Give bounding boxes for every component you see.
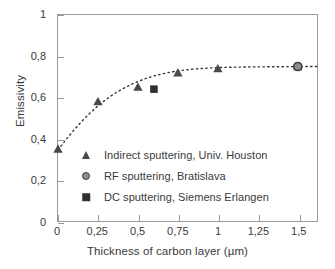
triangle-marker-icon <box>78 148 94 162</box>
legend-label: RF sputtering, Bratislava <box>104 170 226 182</box>
legend-item-indirect-sputtering: Indirect sputtering, Univ. Houston <box>78 146 308 164</box>
x-axis-tick-labels: 00,250,50,7511,251,5 <box>57 225 318 239</box>
circle-data-point <box>294 62 302 70</box>
y-tick-label: 0,8 <box>31 50 46 61</box>
plot-area: Indirect sputtering, Univ. Houston RF sp… <box>58 15 317 221</box>
square-marker-icon <box>78 190 94 204</box>
square-data-point <box>150 85 158 93</box>
y-tick-label: 0,6 <box>31 92 46 103</box>
legend-label: DC sputtering, Siemens Erlangen <box>104 191 269 203</box>
y-tick-label: 0,4 <box>31 133 46 144</box>
legend-label: Indirect sputtering, Univ. Houston <box>104 149 268 161</box>
x-axis-title: Thickness of carbon layer (µm) <box>0 245 335 257</box>
chart-legend: Indirect sputtering, Univ. Houston RF sp… <box>78 146 308 209</box>
trend-curve <box>58 67 317 150</box>
x-tick-label: 0,75 <box>167 225 188 237</box>
legend-item-rf-sputtering: RF sputtering, Bratislava <box>78 167 308 185</box>
plot-frame: Indirect sputtering, Univ. Houston RF sp… <box>57 14 318 222</box>
x-tick-label: 1,5 <box>291 225 306 237</box>
y-tick <box>58 223 64 224</box>
y-tick-label: 0,2 <box>31 175 46 186</box>
y-axis-title: Emissivity <box>14 41 26 161</box>
triangle-data-point <box>133 83 142 91</box>
x-tick-label: 0,25 <box>87 225 108 237</box>
y-tick-label: 0 <box>40 217 46 228</box>
triangle-data-point <box>173 68 182 76</box>
x-tick-label: 0,5 <box>130 225 145 237</box>
x-tick-label: 0 <box>54 225 60 237</box>
emissivity-chart-figure: 00,20,40,60,81 Emissivity Indirect sputt… <box>0 0 335 269</box>
y-tick-label: 1 <box>40 9 46 20</box>
legend-item-dc-sputtering: DC sputtering, Siemens Erlangen <box>78 188 308 206</box>
triangle-data-point <box>93 97 102 105</box>
x-tick-label: 1 <box>215 225 221 237</box>
x-tick-label: 1,25 <box>248 225 269 237</box>
circle-marker-icon <box>78 169 94 183</box>
y-axis-tick-labels: 00,20,40,60,81 <box>0 14 52 222</box>
data-markers <box>53 62 302 153</box>
